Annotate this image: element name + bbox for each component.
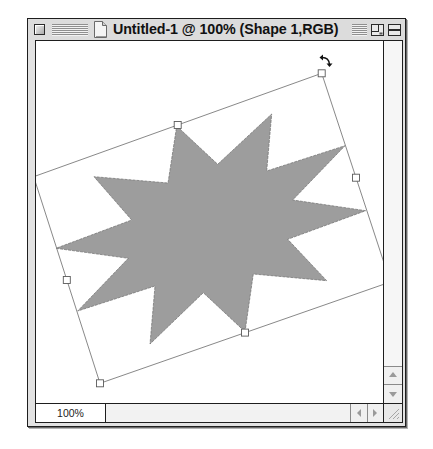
handle-left-middle[interactable]	[63, 277, 70, 284]
handle-top-right[interactable]	[318, 70, 325, 77]
handle-bottom-left[interactable]	[97, 380, 104, 387]
scroll-down-button[interactable]	[384, 384, 402, 403]
star-shape[interactable]	[56, 114, 366, 344]
star-shape-group[interactable]	[56, 114, 366, 344]
scroll-up-button[interactable]	[384, 366, 402, 384]
status-bar: 100%	[36, 403, 402, 422]
resize-grip-icon	[384, 404, 402, 422]
scroll-right-arrow-icon	[368, 404, 383, 422]
handle-right-middle[interactable]	[353, 174, 360, 181]
scroll-up-arrow-icon	[384, 367, 402, 384]
zoom-level-field[interactable]: 100%	[36, 404, 106, 422]
scroll-down-arrow-icon	[384, 385, 402, 402]
canvas[interactable]	[36, 41, 383, 403]
title-bar-stripes-right	[352, 24, 367, 36]
collapse-box-icon[interactable]	[388, 24, 401, 36]
handle-top-middle[interactable]	[174, 122, 181, 129]
scroll-left-arrow-icon	[351, 404, 367, 422]
document-content: 100%	[35, 40, 403, 423]
rotate-cursor-icon	[320, 55, 333, 68]
document-icon[interactable]	[94, 21, 107, 38]
zoom-box-icon[interactable]	[371, 24, 384, 36]
scroll-left-button[interactable]	[350, 404, 367, 422]
window-title: Untitled-1 @ 100% (Shape 1,RGB)	[113, 20, 338, 39]
document-window: Untitled-1 @ 100% (Shape 1,RGB)	[27, 18, 406, 427]
horizontal-scrollbar-track[interactable]	[106, 404, 350, 422]
close-box-icon[interactable]	[34, 24, 45, 35]
handle-bottom-middle[interactable]	[242, 329, 249, 336]
vertical-scrollbar[interactable]	[383, 41, 402, 403]
title-bar[interactable]: Untitled-1 @ 100% (Shape 1,RGB)	[28, 19, 405, 40]
scroll-right-button[interactable]	[367, 404, 383, 422]
resize-grip[interactable]	[383, 404, 402, 422]
title-bar-stripes	[52, 24, 88, 36]
